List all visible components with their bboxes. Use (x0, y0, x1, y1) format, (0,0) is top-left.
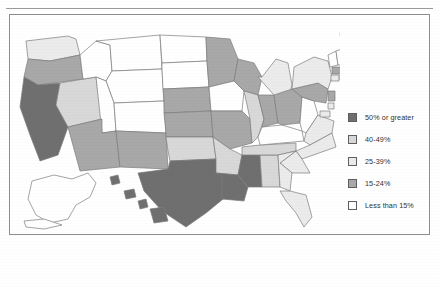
state-OK (166, 137, 216, 161)
state-TX (138, 159, 228, 227)
legend-label-0: 50% or greater (365, 113, 414, 122)
state-AK (28, 173, 96, 223)
legend-label-3: 15-24% (365, 179, 390, 188)
legend-item-1: 40-49% (348, 131, 439, 148)
state-FL (280, 191, 312, 227)
state-CT (331, 75, 339, 81)
state-ND (160, 35, 207, 63)
state-HI-island-1 (110, 175, 120, 185)
legend-swatch-40-49 (348, 135, 357, 144)
legend-item-2: 25-39% (348, 153, 439, 170)
state-OH (274, 89, 302, 125)
legend-swatch-less-than-15 (348, 201, 357, 210)
state-NJ (328, 91, 335, 101)
us-map-svg: .st{stroke:#7d7d7d;stroke-width:0.7;stro… (10, 15, 340, 234)
legend-label-2: 25-39% (365, 157, 390, 166)
legend-label-1: 40-49% (365, 135, 390, 144)
legend-swatch-25-39 (348, 157, 357, 166)
state-AL (260, 155, 280, 187)
state-MA (332, 67, 340, 74)
legend-item-3: 15-24% (348, 175, 439, 192)
state-CO (114, 101, 166, 133)
state-DE (328, 103, 334, 109)
state-NE (163, 87, 211, 113)
legend-swatch-50-or-greater (348, 113, 357, 122)
state-NM (116, 131, 168, 169)
map-legend: 50% or greater 40-49% 25-39% 15-24% Less… (348, 109, 439, 219)
state-KY (258, 125, 304, 145)
legend-item-4: Less than 15% (348, 197, 439, 214)
state-ID (80, 41, 112, 81)
legend-swatch-15-24 (348, 179, 357, 188)
top-divider-rule (6, 8, 433, 9)
state-HI-island-2 (124, 189, 136, 199)
state-MN (206, 37, 238, 87)
legend-label-4: Less than 15% (365, 201, 414, 210)
map-figure-frame: .st{stroke:#7d7d7d;stroke-width:0.7;stro… (9, 14, 430, 235)
us-choropleth-map: .st{stroke:#7d7d7d;stroke-width:0.7;stro… (10, 15, 340, 234)
state-HI-island-3 (138, 199, 148, 209)
state-SD (162, 61, 209, 89)
legend-item-0: 50% or greater (348, 109, 439, 126)
state-MD (320, 111, 330, 117)
state-WY (106, 69, 164, 103)
state-NY (292, 57, 332, 89)
state-KS (164, 111, 213, 137)
figure-page: .st{stroke:#7d7d7d;stroke-width:0.7;stro… (0, 0, 439, 287)
